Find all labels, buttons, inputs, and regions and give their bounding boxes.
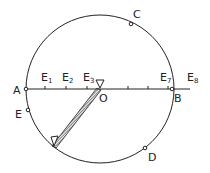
- point-c-marker: [129, 22, 133, 26]
- label-e7: E7: [160, 71, 171, 85]
- label-c: C: [133, 8, 141, 21]
- label-a: A: [13, 84, 21, 97]
- circle-diagram: A B C D E O E1 E2 E3 E7 E8: [0, 0, 210, 173]
- label-e1: E1: [41, 71, 52, 85]
- label-e: E: [15, 108, 22, 121]
- axis-triangle-marker: [96, 80, 104, 88]
- label-e3: E3: [83, 71, 94, 85]
- label-d: D: [148, 151, 156, 164]
- label-e2: E2: [62, 71, 73, 85]
- point-b-marker: [170, 87, 174, 91]
- label-o: O: [99, 92, 108, 105]
- point-e-marker: [26, 108, 30, 112]
- point-a-marker: [24, 87, 28, 91]
- label-b: B: [174, 92, 182, 105]
- label-e8: E8: [187, 71, 198, 85]
- hatched-rod: [52, 88, 101, 148]
- point-d-marker: [143, 146, 147, 150]
